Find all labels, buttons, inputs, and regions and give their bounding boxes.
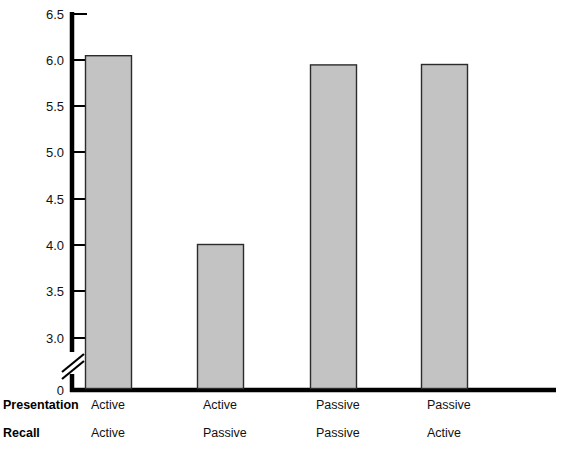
recall-label-4: Active — [427, 426, 461, 440]
recall-label-1: Active — [91, 426, 125, 440]
presentation-label-1: Active — [91, 398, 125, 412]
bar-active-passive — [198, 245, 244, 389]
y-tick-label-5-5: 5.5 — [46, 99, 64, 114]
y-axis-origin-label: 0 — [57, 383, 64, 398]
y-tick-label-6-0: 6.0 — [46, 53, 64, 68]
presentation-label-3: Passive — [316, 398, 360, 412]
bar-passive-passive — [311, 65, 357, 389]
y-tick-label-3-0: 3.0 — [46, 331, 64, 346]
chart-canvas: 6.5 6.0 5.5 5.0 4.5 4.0 3.5 3.0 0 Presen… — [0, 0, 571, 453]
bar-passive-active — [422, 65, 468, 389]
y-tick-label-4-0: 4.0 — [46, 238, 64, 253]
y-tick-labels: 6.5 6.0 5.5 5.0 4.5 4.0 3.5 3.0 0 — [46, 7, 64, 398]
y-tick-label-5-0: 5.0 — [46, 145, 64, 160]
y-tick-label-3-5: 3.5 — [46, 284, 64, 299]
bar-active-active — [86, 56, 132, 389]
presentation-label-2: Active — [203, 398, 237, 412]
y-tick-label-6-5: 6.5 — [46, 7, 64, 22]
recall-label-2: Passive — [203, 426, 247, 440]
row-header-presentation: Presentation — [3, 398, 79, 412]
presentation-label-4: Passive — [427, 398, 471, 412]
bar-chart-figure: 6.5 6.0 5.5 5.0 4.5 4.0 3.5 3.0 0 Presen… — [0, 0, 571, 453]
recall-label-3: Passive — [316, 426, 360, 440]
row-header-recall: Recall — [3, 426, 40, 440]
y-tick-label-4-5: 4.5 — [46, 192, 64, 207]
